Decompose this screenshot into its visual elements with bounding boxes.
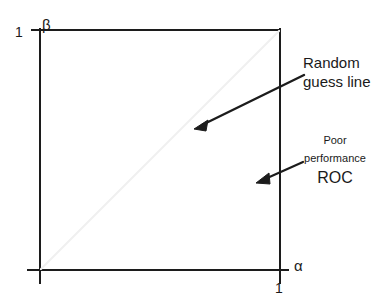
x-axis-tick-max (279, 262, 281, 278)
y-axis-max-label: 1 (15, 25, 23, 39)
top-edge-line (31, 29, 281, 31)
random-guess-annotation-line-1: Random (303, 53, 371, 72)
right-edge-line (279, 28, 281, 284)
random-guess-arrow (194, 75, 304, 131)
random-guess-line-annotation: Random guess line (303, 53, 371, 91)
y-axis-line (39, 28, 41, 284)
random-guess-annotation-line-2: guess line (303, 72, 371, 91)
x-axis-name-label: α (294, 258, 303, 273)
poor-performance-roc-annotation: Poor performance ROC (286, 131, 384, 188)
poor-performance-annotation-line-1: Poor (286, 131, 384, 149)
x-axis-line (27, 269, 289, 271)
poor-performance-annotation-line-3: ROC (286, 168, 384, 188)
y-axis-name-label: β (42, 17, 51, 32)
poor-performance-annotation-line-2: performance (286, 149, 384, 167)
random-guess-diagonal-line (40, 30, 280, 270)
roc-diagram-canvas: 1 β 1 α Random guess line Poor performan… (0, 0, 387, 307)
x-axis-max-label: 1 (275, 281, 283, 295)
